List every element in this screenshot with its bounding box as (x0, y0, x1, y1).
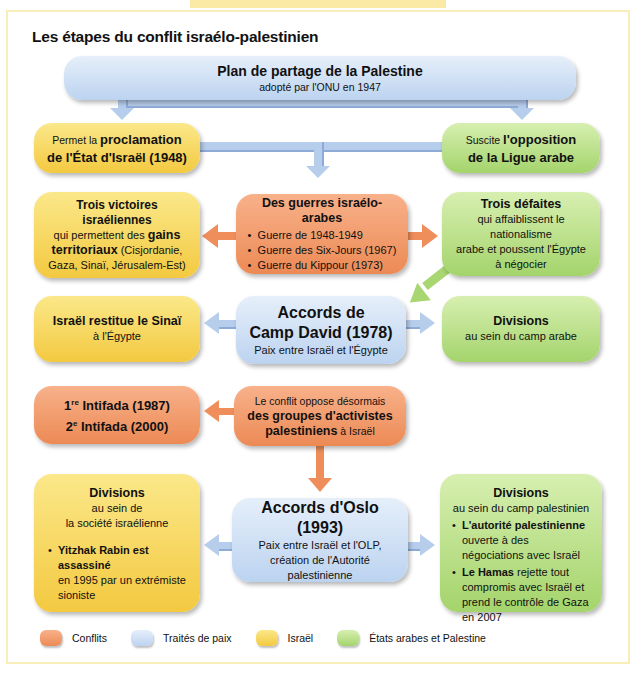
node-camp-david: Accords de Camp David (1978) Paix entre … (236, 296, 406, 364)
node-text: arabe et poussent l'Égypte (456, 242, 586, 257)
legend-swatch (256, 630, 278, 646)
list-item: Guerre des Six-Jours (1967) (248, 243, 397, 258)
arrow-down-icon (308, 478, 332, 492)
legend-swatch (337, 630, 359, 646)
node-plan-partage: Plan de partage de la Palestine adopté p… (64, 56, 576, 100)
node-text-bold: proclamation (100, 132, 182, 147)
node-subtitle: adopté par l'ONU en 1947 (259, 80, 381, 95)
guerres-list: Guerre de 1948-1949 Guerre des Six-Jours… (248, 228, 397, 273)
node-text: Suscite (466, 134, 503, 146)
node-text-bold: de l'État d'Israël (1948) (47, 149, 187, 166)
connector-guerres-left (218, 232, 236, 240)
node-text: création de l'Autorité palestinienne (240, 553, 400, 583)
node-title: Camp David (1978) (249, 323, 392, 343)
node-title: Divisions (493, 314, 549, 329)
header-tab (190, 0, 446, 8)
arrow-right-icon (422, 224, 438, 248)
connector-row2-down (314, 142, 324, 168)
node-text: Intifada (2000) (77, 419, 168, 434)
node-text: Paix entre Israël et l'Égypte (254, 343, 388, 358)
node-proclamation: Permet la proclamation de l'État d'Israë… (34, 123, 200, 173)
legend-label: Conflits (72, 632, 107, 644)
node-text: la société israélienne (66, 516, 169, 531)
node-title: Trois victoires israéliennes (42, 198, 192, 228)
arrow-left-icon (204, 400, 219, 422)
node-text: à Israël (337, 425, 374, 437)
arrow-down-icon (510, 108, 534, 120)
node-text: (Cisjordanie, (118, 244, 183, 256)
node-title: Divisions (89, 486, 145, 501)
list-item: Guerre du Kippour (1973) (248, 258, 397, 273)
node-text: au sein de (92, 501, 143, 516)
legend-item-arabes: États arabes et Palestine (337, 630, 486, 646)
node-text: Permet la (52, 134, 100, 146)
node-divisions-arabe: Divisions au sein du camp arabe (442, 296, 600, 362)
node-text: 2 (66, 419, 73, 434)
node-text: Gaza, Sinaï, Jérusalem-Est) (48, 258, 186, 273)
node-oslo: Accords d'Oslo (1993) Paix entre Israël … (232, 498, 408, 582)
node-divisions-palestinien: Divisions au sein du camp palestinien L'… (440, 474, 602, 612)
arrow-right-icon (420, 534, 435, 556)
node-text: en 1995 par un extrémiste sioniste (58, 574, 186, 601)
list-item: Yitzhak Rabin est assassinéen 1995 par u… (48, 543, 186, 603)
node-text: Le conflit oppose désormais (255, 394, 386, 409)
list-item: Le Hamas rejette tout compromis avec Isr… (452, 565, 590, 625)
node-text: qui permettent des (54, 229, 148, 241)
node-sinai: Israël restitue le Sinaï à l'Égypte (34, 296, 200, 362)
node-text: à négocier (495, 257, 546, 272)
node-activistes: Le conflit oppose désormais des groupes … (234, 386, 406, 446)
arrow-left-icon (202, 224, 218, 248)
node-text-bold: L'autorité palestinienne (462, 519, 585, 531)
legend-swatch (131, 630, 153, 646)
node-text: ouverte à des négociations avec Israël (462, 534, 580, 561)
divisions-pal-list: L'autorité palestinienneouverte à des né… (448, 518, 594, 625)
list-item: L'autorité palestinienneouverte à des né… (452, 518, 590, 563)
diagram-title: Les étapes du conflit israélo-palestinie… (32, 28, 318, 46)
node-text: Paix entre Israël et l'OLP, (259, 538, 382, 553)
node-text-bold: palestiniens (265, 424, 337, 438)
node-title: Trois défaites (481, 197, 562, 212)
legend-item-conflits: Conflits (40, 630, 107, 646)
node-title: Divisions (493, 486, 549, 501)
connector-act-down (316, 446, 324, 480)
legend-label: Traités de paix (163, 632, 231, 644)
node-text-bold: gains (148, 228, 181, 242)
node-title: Israël restitue le Sinaï (53, 314, 182, 329)
arrow-down-icon (110, 108, 134, 120)
node-title: (1993) (297, 518, 343, 538)
node-title: Plan de partage de la Palestine (217, 62, 422, 80)
node-victoires: Trois victoires israéliennes qui permett… (34, 192, 200, 278)
divisions-israel-list: Yitzhak Rabin est assassinéen 1995 par u… (42, 543, 192, 603)
legend: Conflits Traités de paix Israël États ar… (40, 630, 510, 646)
arrow-right-icon (420, 312, 435, 334)
node-divisions-israel: Divisions au sein de la société israélie… (34, 474, 200, 612)
node-title: Accords d'Oslo (261, 498, 379, 518)
node-defaites: Trois défaites qui affaiblissent le nati… (442, 192, 600, 276)
node-opposition: Suscite l'opposition de la Ligue arabe (442, 123, 600, 173)
node-text-bold: Le Hamas (462, 566, 514, 578)
node-text: Intifada (1987) (79, 398, 170, 413)
legend-swatch (40, 630, 62, 646)
connector-cd-left (218, 320, 236, 329)
node-text: au sein du camp palestinien (453, 501, 589, 516)
arrow-left-icon (204, 534, 219, 556)
node-title: Accords de (277, 303, 364, 323)
node-text-bold: l'opposition (503, 132, 576, 147)
node-text-bold: des groupes d'activistes (247, 409, 392, 424)
legend-label: États arabes et Palestine (369, 632, 486, 644)
arrow-left-icon (204, 312, 219, 334)
node-text: à l'Égypte (93, 329, 141, 344)
node-text-bold: territoriaux (52, 243, 118, 257)
node-title: Des guerres israélo-arabes (244, 196, 400, 226)
node-text: qui affaiblissent le nationalisme (450, 212, 592, 242)
legend-item-traites: Traités de paix (131, 630, 231, 646)
node-guerres: Des guerres israélo-arabes Guerre de 194… (236, 194, 408, 274)
node-text: re (71, 398, 79, 407)
legend-label: Israël (288, 632, 314, 644)
connector-act-left (218, 408, 234, 415)
node-text: au sein du camp arabe (465, 329, 577, 344)
list-item: Guerre de 1948-1949 (248, 228, 397, 243)
node-text-bold: Yitzhak Rabin est assassiné (58, 544, 149, 571)
legend-item-israel: Israël (256, 630, 314, 646)
node-text-bold: de la Ligue arabe (468, 149, 574, 166)
